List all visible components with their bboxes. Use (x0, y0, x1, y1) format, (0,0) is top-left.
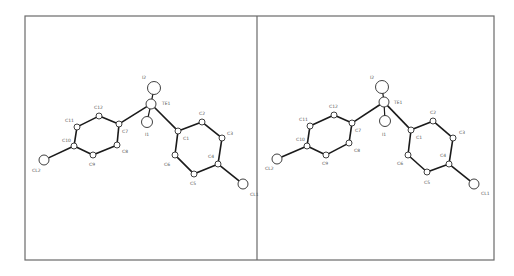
atom-label-c2: C2 (199, 111, 205, 116)
atom-c6 (405, 152, 411, 158)
atom-label-te1: TE1 (161, 101, 171, 106)
bond-c4-cl1 (451, 166, 470, 181)
atom-label-c6: C6 (164, 162, 170, 167)
atom-label-c9: C9 (89, 162, 95, 167)
bond-c6-c1 (408, 133, 410, 152)
bond-c9-c8 (329, 144, 347, 153)
atom-c11 (74, 124, 80, 130)
bond-c10-cl2 (282, 147, 305, 157)
atom-cl2 (272, 154, 282, 164)
stereo-molecule-figure: I2TE1I1C7C12C11C10C9C8CL2C1C2C3C4C5C6CL1… (0, 0, 514, 276)
bond-c12-c11 (80, 117, 97, 125)
atom-label-i1: I1 (145, 132, 149, 137)
atom-label-c5: C5 (424, 180, 430, 185)
atom-c1 (408, 127, 414, 133)
bond-c10-c9 (77, 147, 91, 153)
atom-label-c7: C7 (355, 128, 361, 133)
atom-cl2 (39, 155, 49, 165)
bond-c2-c3 (435, 123, 450, 136)
bond-c10-c9 (310, 147, 324, 153)
atom-label-c2: C2 (430, 110, 436, 115)
atom-i1 (380, 116, 391, 127)
atom-c4 (215, 161, 221, 167)
atom-label-c12: C12 (329, 104, 338, 109)
atom-label-i2: I2 (142, 75, 146, 80)
atom-label-c11: C11 (299, 117, 308, 122)
atom-label-c10: C10 (296, 137, 305, 142)
bond-c1-c2 (181, 123, 199, 130)
atom-te1 (379, 97, 389, 107)
atom-label-c11: C11 (65, 118, 74, 123)
bond-te1-c1 (155, 108, 176, 129)
bond-c1-c2 (414, 122, 430, 129)
atom-label-c9: C9 (322, 161, 328, 166)
bond-c3-c4 (449, 141, 452, 161)
atom-c2 (199, 119, 205, 125)
bond-c5-c6 (177, 157, 192, 172)
figure-canvas: I2TE1I1C7C12C11C10C9C8CL2C1C2C3C4C5C6CL1… (0, 0, 514, 276)
atom-c11 (307, 123, 313, 129)
atom-label-c10: C10 (62, 138, 71, 143)
atom-label-c8: C8 (122, 149, 128, 154)
bond-c7-c12 (102, 117, 116, 123)
atom-label-c3: C3 (227, 131, 233, 136)
atom-label-cl2: CL2 (32, 168, 41, 173)
atom-c8 (114, 142, 120, 148)
atom-label-cl1: CL1 (250, 192, 259, 197)
atom-label-c12: C12 (94, 105, 103, 110)
atom-label-c1: C1 (416, 135, 422, 140)
atom-c5 (424, 169, 430, 175)
atom-c10 (71, 143, 77, 149)
atom-c12 (331, 112, 337, 118)
atom-label-c7: C7 (122, 129, 128, 134)
atom-label-te1: TE1 (393, 100, 403, 105)
atom-label-c8: C8 (354, 148, 360, 153)
bond-c9-c8 (96, 146, 114, 154)
atom-label-c1: C1 (183, 136, 189, 141)
bond-te1-c7 (355, 105, 380, 122)
bond-c2-c3 (204, 124, 219, 136)
bond-c5-c6 (410, 157, 425, 170)
atom-label-c4: C4 (440, 153, 446, 158)
atom-c3 (219, 135, 225, 141)
atom-label-cl1: CL1 (481, 191, 490, 196)
atom-label-c3: C3 (459, 130, 465, 135)
atom-c4 (446, 161, 452, 167)
atom-label-c5: C5 (190, 181, 196, 186)
bond-c12-c11 (313, 116, 332, 125)
bond-c11-c10 (307, 129, 309, 143)
bond-c4-c5 (430, 165, 446, 171)
atom-c9 (90, 152, 96, 158)
atom-cl1 (238, 179, 248, 189)
atom-label-i1: I1 (382, 132, 386, 137)
figure-frame (25, 16, 494, 260)
atom-c2 (430, 118, 436, 124)
atom-c10 (304, 143, 310, 149)
atom-c9 (323, 152, 329, 158)
bond-c11-c10 (74, 130, 76, 143)
atom-c8 (346, 140, 352, 146)
bond-te1-c1 (387, 106, 408, 128)
bond-c10-cl2 (49, 147, 72, 158)
bond-c4-cl1 (220, 166, 239, 181)
atom-i2 (376, 81, 389, 94)
bond-te1-i1 (148, 109, 150, 117)
atom-i2 (148, 82, 161, 95)
bond-c6-c1 (175, 134, 177, 152)
bond-c4-c5 (197, 165, 215, 173)
atom-c6 (172, 152, 178, 158)
bond-te1-i2 (152, 94, 153, 99)
panels: I2TE1I1C7C12C11C10C9C8CL2C1C2C3C4C5C6CL1… (32, 75, 490, 197)
atom-te1 (146, 99, 156, 109)
left-view: I2TE1I1C7C12C11C10C9C8CL2C1C2C3C4C5C6CL1 (32, 75, 259, 197)
bond-c7-c12 (337, 116, 350, 122)
atom-c7 (116, 121, 122, 127)
atom-label-cl2: CL2 (265, 166, 274, 171)
atom-c7 (349, 120, 355, 126)
atom-c12 (96, 113, 102, 119)
bond-c8-c7 (349, 126, 351, 140)
atom-label-c4: C4 (208, 154, 214, 159)
atom-c1 (175, 128, 181, 134)
atom-label-i2: I2 (370, 75, 374, 80)
atom-label-c6: C6 (397, 161, 403, 166)
